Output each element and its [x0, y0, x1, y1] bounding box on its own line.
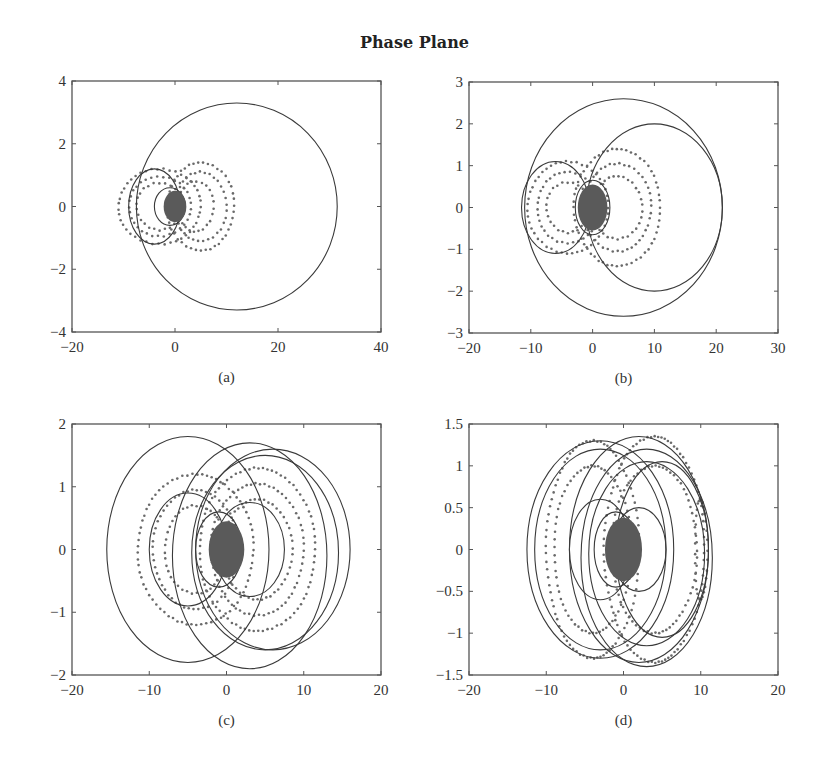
- dense-core: [578, 184, 608, 230]
- y-tick-label: 3: [456, 74, 464, 90]
- y-tick-label: −0.5: [436, 583, 463, 599]
- x-tick-label: −10: [138, 682, 161, 698]
- subplot-b: −20−100102030−3−2−10123(b): [447, 74, 785, 387]
- plot-area: [107, 437, 350, 669]
- x-tick-label: −20: [457, 340, 480, 356]
- x-tick-label: 0: [620, 682, 628, 698]
- x-tick-label: 20: [771, 682, 786, 698]
- y-tick-label: 0: [456, 200, 464, 216]
- x-tick-label: 40: [374, 339, 389, 355]
- y-tick-label: 0: [59, 542, 67, 558]
- trajectory-curve: [535, 449, 666, 650]
- dense-core: [164, 191, 187, 222]
- subplot-a: −2002040−4−2024(a): [50, 73, 388, 386]
- x-tick-label: 20: [374, 682, 389, 698]
- x-tick-label: 0: [171, 339, 179, 355]
- y-tick-label: 2: [456, 116, 464, 132]
- y-tick-label: 1.5: [444, 416, 463, 432]
- x-tick-label: −10: [519, 340, 542, 356]
- plot-area: [117, 103, 337, 310]
- y-tick-label: −1: [447, 625, 463, 641]
- subplot-caption: (d): [615, 712, 633, 729]
- x-tick-label: −20: [457, 682, 480, 698]
- axes-box: [469, 82, 778, 333]
- y-tick-label: 0.5: [444, 500, 463, 516]
- x-tick-label: 0: [589, 340, 597, 356]
- axes-box: [72, 81, 381, 332]
- subplot-caption: (c): [218, 712, 235, 729]
- plot-area: [527, 435, 712, 667]
- y-tick-label: 2: [59, 416, 67, 432]
- y-tick-label: 1: [456, 158, 464, 174]
- subplot-d: −20−1001020−1.5−1−0.500.511.5(d): [436, 416, 786, 729]
- dense-core: [605, 518, 642, 582]
- y-tick-label: 2: [59, 136, 67, 152]
- y-tick-label: 1: [59, 479, 67, 495]
- x-tick-label: 0: [223, 682, 231, 698]
- y-tick-label: −2: [50, 667, 66, 683]
- x-tick-label: −20: [60, 339, 83, 355]
- x-tick-label: 30: [771, 340, 786, 356]
- y-tick-label: −4: [50, 324, 66, 340]
- y-tick-label: 0: [59, 199, 67, 215]
- y-tick-label: −2: [50, 261, 66, 277]
- trajectory-curve: [525, 99, 723, 317]
- x-tick-label: −20: [60, 682, 83, 698]
- trajectory-curve: [527, 441, 674, 659]
- y-tick-label: −1.5: [436, 667, 463, 683]
- x-tick-label: 10: [296, 682, 311, 698]
- y-tick-label: 4: [59, 73, 67, 89]
- y-tick-label: −1: [447, 241, 463, 257]
- phase-plane-figure: −2002040−4−2024(a) −20−100102030−3−2−101…: [0, 0, 829, 770]
- y-tick-label: 1: [456, 458, 464, 474]
- x-tick-label: 10: [647, 340, 662, 356]
- dense-core: [209, 521, 245, 577]
- x-tick-label: 20: [709, 340, 724, 356]
- y-tick-label: −2: [447, 283, 463, 299]
- subplot-caption: (a): [218, 369, 235, 386]
- y-tick-label: −3: [447, 325, 463, 341]
- subplot-c: −20−1001020−2−1012(c): [50, 416, 388, 729]
- y-tick-label: 0: [456, 542, 464, 558]
- y-tick-label: −1: [50, 604, 66, 620]
- x-tick-label: 10: [693, 682, 708, 698]
- x-tick-label: −10: [535, 682, 558, 698]
- subplot-caption: (b): [615, 370, 633, 387]
- x-tick-label: 20: [271, 339, 286, 355]
- plot-area: [522, 99, 723, 317]
